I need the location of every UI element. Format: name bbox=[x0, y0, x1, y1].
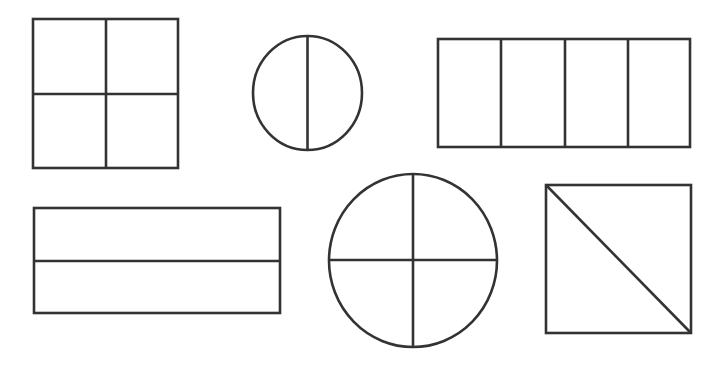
square-diagonal-halves-divider-1 bbox=[546, 185, 691, 333]
circle-halves bbox=[253, 36, 362, 150]
rectangle-halves bbox=[34, 208, 280, 313]
circle-quarters bbox=[329, 174, 497, 347]
shapes-figure bbox=[0, 0, 724, 369]
diagram-canvas bbox=[0, 0, 724, 369]
rectangle-fourths bbox=[438, 39, 690, 147]
square-diagonal-halves bbox=[546, 185, 691, 333]
square-quarters bbox=[33, 19, 178, 168]
